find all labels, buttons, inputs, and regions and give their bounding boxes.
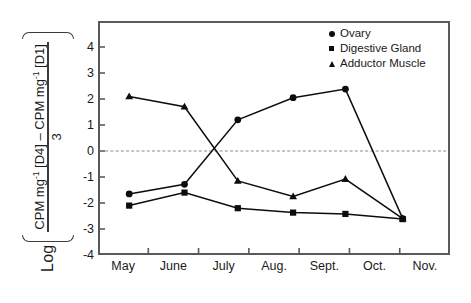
- legend-label: Digestive Gland: [340, 43, 421, 55]
- square-glyph: [329, 46, 335, 52]
- numerator-prefix: CPM mg: [32, 179, 47, 230]
- numerator-sup-2: -1: [31, 71, 41, 79]
- x-tick-label: June: [160, 260, 187, 273]
- y-tick-label: -2: [72, 197, 94, 210]
- x-tick-label: May: [111, 260, 135, 273]
- y-tick-label: -3: [72, 223, 94, 236]
- fraction-denominator: 3: [49, 133, 63, 140]
- data-point-circle: [234, 116, 241, 123]
- y-tick-label: 2: [72, 93, 94, 106]
- legend-marker-square-icon: [327, 44, 336, 53]
- series-line: [129, 89, 403, 218]
- data-point-triangle: [125, 92, 133, 99]
- legend-label: Adductor Muscle: [340, 58, 426, 70]
- legend-item: Adductor Muscle: [327, 57, 426, 70]
- bracket-left: [22, 234, 74, 241]
- chart-figure: Log CPM mg-1 [D4] – CPM mg-1 [D1] 3 4321…: [0, 0, 471, 303]
- series-line: [129, 96, 403, 218]
- circle-glyph: [329, 31, 335, 37]
- data-point-square: [290, 210, 296, 216]
- y-axis-tick-labels: 43210-1-2-3-4: [68, 21, 94, 255]
- data-point-triangle: [342, 175, 350, 182]
- data-point-square: [126, 203, 132, 209]
- legend-marker-circle-icon: [327, 29, 336, 38]
- data-series: [126, 190, 406, 223]
- series-line: [129, 193, 403, 220]
- x-tick-label: Aug.: [261, 260, 287, 273]
- fraction-numerator: CPM mg-1 [D4] – CPM mg-1 [D1]: [33, 42, 47, 232]
- data-point-circle: [342, 86, 349, 93]
- numerator-suffix: [D1]: [32, 44, 47, 71]
- triangle-glyph: [329, 61, 335, 67]
- data-series: [126, 86, 406, 222]
- data-point-circle: [290, 94, 297, 101]
- legend-label: Ovary: [340, 28, 371, 40]
- data-point-square: [181, 190, 187, 196]
- chart-legend: OvaryDigestive GlandAdductor Muscle: [327, 27, 426, 70]
- y-axis-label-fraction: CPM mg-1 [D4] – CPM mg-1 [D1] 3: [33, 39, 62, 235]
- data-point-circle: [126, 191, 133, 198]
- y-tick-label: 3: [72, 67, 94, 80]
- legend-marker-triangle-icon: [327, 59, 336, 68]
- x-tick-label: July: [213, 260, 235, 273]
- legend-item: Digestive Gland: [327, 42, 426, 55]
- x-tick-label: Oct.: [363, 260, 386, 273]
- data-point-square: [235, 205, 241, 211]
- y-tick-label: 1: [72, 119, 94, 132]
- data-point-square: [342, 211, 348, 217]
- y-tick-label: 4: [72, 41, 94, 54]
- legend-item: Ovary: [327, 27, 426, 40]
- data-point-circle: [181, 181, 188, 188]
- x-tick-label: Nov.: [412, 260, 437, 273]
- x-axis-tick-labels: MayJuneJulyAug.Sept.Oct.Nov.: [98, 260, 450, 282]
- x-tick-label: Sept.: [310, 260, 339, 273]
- y-tick-label: -4: [72, 249, 94, 262]
- numerator-sup-1: -1: [31, 171, 41, 179]
- bracket-right: [22, 32, 74, 39]
- y-tick-label: -1: [72, 171, 94, 184]
- y-tick-label: 0: [72, 145, 94, 158]
- data-series: [125, 92, 406, 221]
- data-series-layer: [125, 86, 406, 223]
- y-axis-label-log: Log: [40, 244, 56, 271]
- y-axis-label-bracket: CPM mg-1 [D4] – CPM mg-1 [D1] 3: [22, 32, 74, 242]
- numerator-mid: [D4] – CPM mg: [32, 79, 47, 171]
